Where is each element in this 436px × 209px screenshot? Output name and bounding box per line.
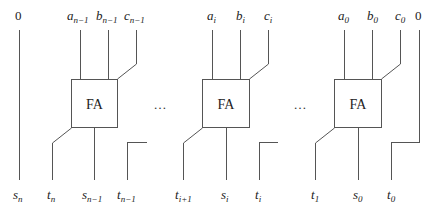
full-adder-chain-diagram: 0 sn an−1 bn−1 cn−1 FA tn sn−1 tn−1 … ai… — [0, 0, 436, 209]
s-n-label: sn — [13, 187, 23, 204]
b-0-label: b0 — [367, 8, 379, 25]
fa-label: FA — [86, 97, 104, 112]
left-zero-label: 0 — [15, 8, 22, 23]
t-out-wire — [184, 128, 203, 180]
t-out-wire — [53, 128, 72, 180]
fa-block-i: ai bi ci FA ti+1 si ti — [175, 8, 278, 204]
t-n-label: tn — [47, 187, 56, 204]
ellipsis-left: … — [154, 97, 167, 112]
c-wire — [382, 30, 401, 79]
a-0-label: a0 — [338, 8, 350, 25]
t-in-wire — [260, 143, 279, 181]
b-n-minus-1-label: bn−1 — [96, 8, 118, 25]
t-1-label: t1 — [311, 187, 319, 204]
t-0-label: t0 — [387, 187, 396, 204]
a-i-label: ai — [207, 8, 217, 25]
fa-label: FA — [218, 97, 236, 112]
s-n-minus-1-label: sn−1 — [82, 187, 102, 204]
t-i-label: ti — [255, 187, 262, 204]
c-0-label: c0 — [395, 8, 406, 25]
fa-label: FA — [350, 97, 368, 112]
b-i-label: bi — [236, 8, 246, 25]
c-i-label: ci — [264, 8, 273, 25]
fa-block-0: a0 b0 c0 0 FA t1 s0 t0 — [311, 8, 422, 204]
c-wire — [118, 30, 137, 79]
c-wire — [250, 30, 269, 79]
t-i-plus-1-label: ti+1 — [175, 187, 192, 204]
t-in-wire — [128, 143, 148, 181]
fa-block-n-minus-1: an−1 bn−1 cn−1 FA tn sn−1 tn−1 — [47, 8, 147, 204]
right-zero-label: 0 — [415, 8, 422, 23]
ellipsis-right: … — [294, 97, 307, 112]
c-n-minus-1-label: cn−1 — [124, 8, 145, 25]
t-out-wire — [316, 128, 335, 180]
s-0-label: s0 — [353, 187, 363, 204]
s-i-label: si — [221, 187, 229, 204]
t-n-minus-1-label: tn−1 — [117, 187, 136, 204]
t-0-wire — [392, 30, 420, 180]
a-n-minus-1-label: an−1 — [67, 8, 89, 25]
